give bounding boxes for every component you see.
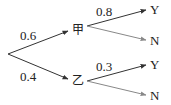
node-yi: 乙 xyxy=(72,74,84,88)
outcome-jia-n: N xyxy=(150,33,160,48)
outcome-jia-y: Y xyxy=(150,2,160,17)
branch-root-yi xyxy=(8,54,68,79)
probability-tree: 0.6 0.4 甲 乙 0.8 0.3 Y N Y N xyxy=(0,0,171,105)
branch-root-jia xyxy=(8,31,68,54)
prob-yi: 0.4 xyxy=(20,69,37,84)
prob-yi-y: 0.3 xyxy=(96,59,112,74)
outcome-yi-n: N xyxy=(150,88,160,103)
outcome-yi-y: Y xyxy=(150,57,160,72)
prob-jia: 0.6 xyxy=(20,28,37,43)
node-jia: 甲 xyxy=(72,23,84,37)
branch-yi-n xyxy=(87,81,146,95)
branch-jia-n xyxy=(87,26,146,40)
prob-jia-y: 0.8 xyxy=(96,4,112,19)
